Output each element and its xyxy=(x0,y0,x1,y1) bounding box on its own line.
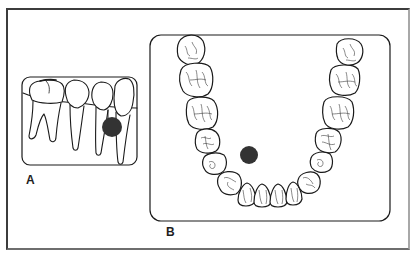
panel-label-a: A xyxy=(26,173,35,187)
right-third-molar xyxy=(336,39,363,65)
premolar-tooth xyxy=(65,80,89,150)
right-first-molar xyxy=(323,97,354,129)
panel-label-b: B xyxy=(166,225,175,239)
right-canine xyxy=(298,172,321,193)
right-second-molar xyxy=(330,65,360,95)
marker-dot-a xyxy=(102,117,122,137)
left-second-premolar xyxy=(195,129,219,153)
left-second-molar xyxy=(180,63,213,97)
panel-b xyxy=(150,35,390,221)
marker-dot-b xyxy=(240,146,258,164)
left-canine xyxy=(218,172,242,195)
panel-a xyxy=(22,77,137,165)
right-second-premolar xyxy=(315,128,341,152)
right-first-premolar xyxy=(310,152,332,173)
incisor xyxy=(254,184,271,207)
left-third-molar xyxy=(177,35,204,65)
incisor xyxy=(270,184,287,207)
dental-diagram xyxy=(0,0,413,253)
molar-tooth xyxy=(29,80,64,142)
